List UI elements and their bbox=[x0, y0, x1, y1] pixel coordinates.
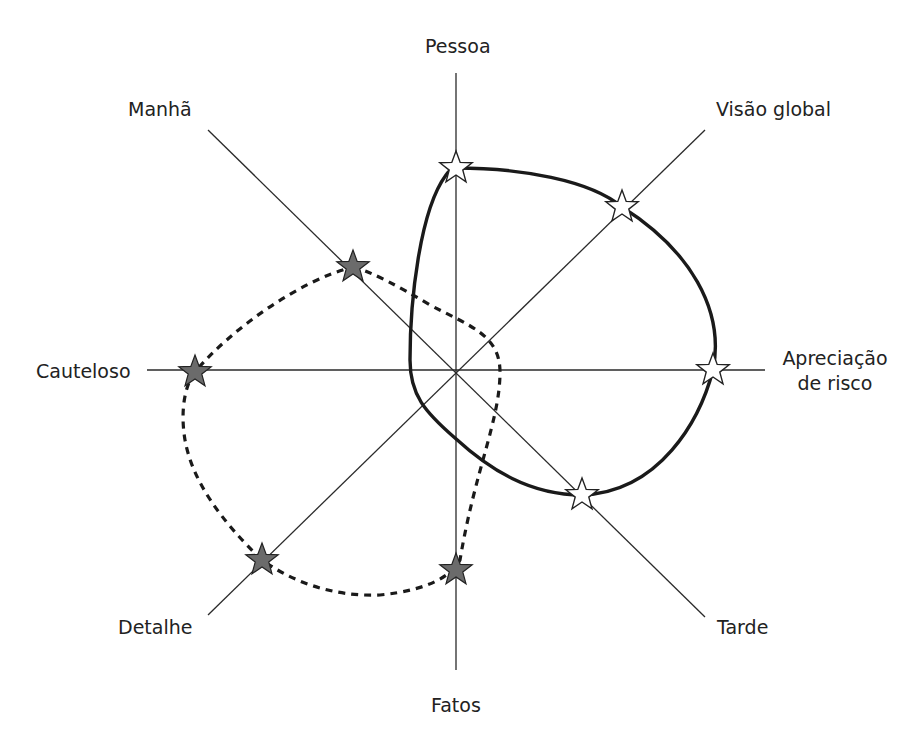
label-cauteloso: Cauteloso bbox=[36, 360, 131, 382]
label-manha: Manhã bbox=[128, 98, 192, 120]
hollow-star-icon bbox=[697, 353, 729, 384]
filled-star-icon bbox=[179, 355, 211, 386]
label-apreciacao-line1: Apreciação bbox=[780, 347, 890, 369]
label-visao-global: Visão global bbox=[716, 98, 831, 120]
label-fatos: Fatos bbox=[431, 694, 481, 716]
label-pessoa: Pessoa bbox=[425, 35, 491, 57]
filled-star-icon bbox=[337, 250, 369, 281]
dashed-profile-curve bbox=[183, 267, 500, 595]
label-apreciacao-de-risco: Apreciação de risco bbox=[780, 347, 890, 394]
hollow-star-icon bbox=[566, 478, 598, 509]
label-detalhe: Detalhe bbox=[118, 616, 192, 638]
dashed-profile-markers bbox=[179, 250, 472, 584]
label-tarde: Tarde bbox=[717, 616, 768, 638]
label-apreciacao-line2: de risco bbox=[780, 372, 890, 394]
